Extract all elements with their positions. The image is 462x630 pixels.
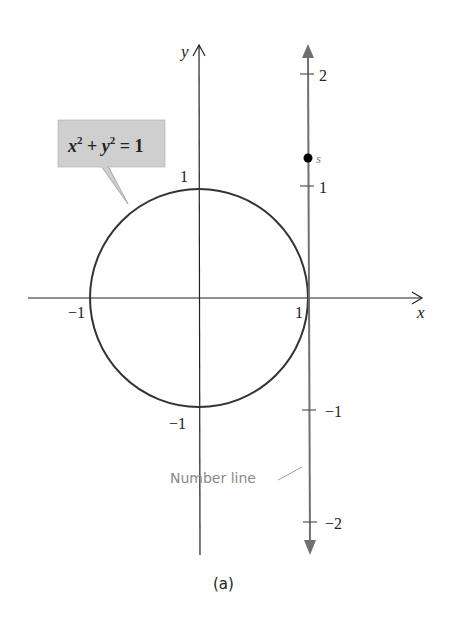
x-axis-label: x: [416, 303, 425, 322]
y-tick-1: 1: [180, 168, 188, 185]
figure-caption: (a): [213, 575, 234, 593]
x-tick-neg1: −1: [68, 304, 85, 321]
x-tick-1: 1: [295, 304, 303, 321]
number-line-down-arrow-icon: [304, 540, 316, 555]
y-tick-neg1: −1: [169, 415, 186, 432]
number-line-label-leader: [278, 467, 302, 480]
y-axis-label: y: [179, 42, 189, 61]
number-line-tick-2: 2: [319, 67, 327, 84]
number-line-up-arrow-icon: [302, 44, 314, 58]
x-axis: [28, 292, 422, 304]
number-line-tick-1: 1: [319, 179, 327, 196]
number-line-tick-neg2: −2: [325, 515, 342, 532]
point-s-label: s: [316, 151, 321, 166]
number-line-tick-neg1: −1: [325, 403, 342, 420]
point-s: [304, 154, 313, 163]
equation-callout: [58, 120, 165, 204]
number-line: [278, 44, 317, 555]
number-line-label: Number line: [170, 470, 256, 486]
unit-circle-figure: y x −1 1 1 −1 2 1 −1 −2 s Number line x2…: [0, 0, 462, 630]
